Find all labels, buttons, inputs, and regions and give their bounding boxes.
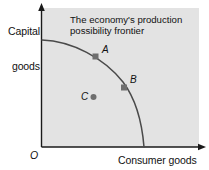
data-point-a-label: A <box>102 44 109 55</box>
x-axis-arrowhead <box>198 144 206 150</box>
y-axis-label: Capital goods <box>2 3 40 95</box>
y-axis-label-line1: Capital <box>2 26 40 38</box>
data-point-b-marker <box>121 85 127 91</box>
data-point-b-label: B <box>130 74 137 85</box>
data-point-a-marker <box>93 54 99 60</box>
data-point-c-label: C <box>81 91 88 102</box>
ppf-figure: Capital goods Consumer goods O The econo… <box>0 0 209 170</box>
data-point-c-marker <box>91 94 97 100</box>
y-axis-label-line2: goods <box>2 61 40 73</box>
chart-title-line1: The economy's production <box>70 14 195 25</box>
chart-title-line2: possibility frontier <box>70 25 195 36</box>
origin-label: O <box>30 149 38 161</box>
chart-title-annotation: The economy's production possibility fro… <box>70 14 195 36</box>
x-axis-label: Consumer goods <box>118 155 197 167</box>
